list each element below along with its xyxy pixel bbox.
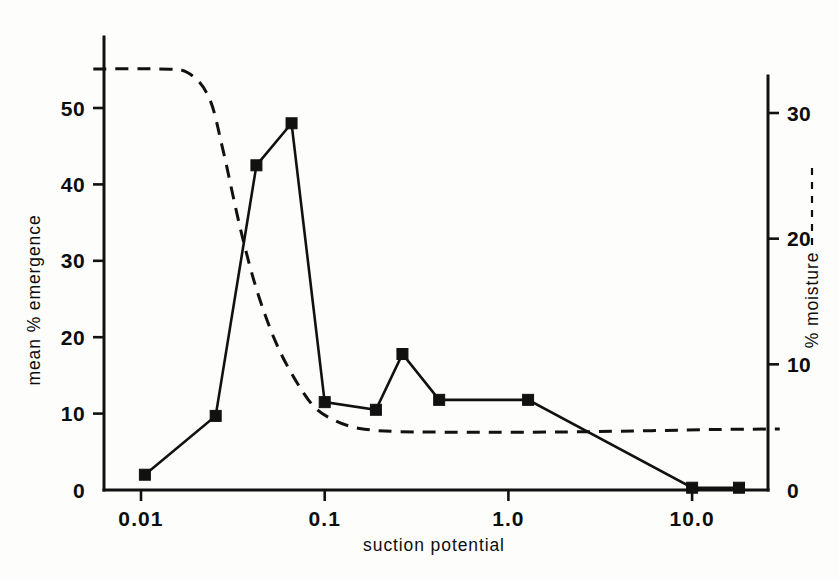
chart-canvas: 01020304050 0102030 0.010.11.010.0 sucti…	[0, 0, 839, 579]
chart-figure: 01020304050 0102030 0.010.11.010.0 sucti…	[0, 0, 839, 579]
x-axis-tick-label: 10.0	[669, 507, 714, 530]
x-axis-tick-label: 1.0	[492, 507, 525, 530]
right-axis-tick-label: 10	[787, 353, 811, 376]
left-axis-tick-label: 50	[61, 97, 85, 120]
data-point-marker	[687, 482, 698, 493]
emergence-solid-line	[145, 123, 739, 487]
x-axis-title: suction potential	[363, 535, 505, 555]
data-point-marker	[523, 394, 534, 405]
data-point-marker	[370, 404, 381, 415]
x-axis-ticks	[141, 490, 692, 501]
data-point-marker	[733, 482, 744, 493]
left-axis-tick-label: 30	[61, 249, 85, 272]
left-axis-tick-label: 10	[61, 402, 85, 425]
left-axis-tick-labels: 01020304050	[61, 97, 85, 502]
data-point-marker	[139, 469, 150, 480]
data-point-marker	[251, 160, 262, 171]
left-axis-tick-label: 40	[61, 173, 85, 196]
left-axis-ticks	[93, 108, 104, 414]
data-point-marker	[397, 349, 408, 360]
left-axis-title: mean % emergence	[24, 214, 44, 385]
x-axis-tick-labels: 0.010.11.010.0	[118, 507, 714, 530]
right-axis-title: % moisture	[802, 252, 822, 349]
data-markers-layer	[139, 118, 744, 493]
data-point-marker	[319, 397, 330, 408]
right-axis-ticks	[768, 113, 779, 364]
x-axis-tick-label: 0.1	[308, 507, 341, 530]
right-axis-tick-label: 30	[787, 102, 811, 125]
right-axis-tick-label: 20	[787, 227, 811, 250]
data-point-marker	[434, 394, 445, 405]
axes-group	[104, 37, 768, 490]
moisture-dashed-line	[93, 69, 779, 432]
data-point-marker	[210, 410, 221, 421]
right-axis-tick-label: 0	[787, 479, 799, 502]
x-axis-tick-label: 0.01	[118, 507, 163, 530]
left-axis-tick-label: 20	[61, 326, 85, 349]
data-point-marker	[286, 118, 297, 129]
data-series-layer	[93, 69, 779, 488]
left-axis-tick-label: 0	[73, 479, 85, 502]
